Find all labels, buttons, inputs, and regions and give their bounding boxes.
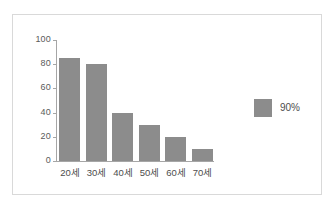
x-axis-tick-label: 60세 — [161, 167, 191, 179]
y-axis-tick-label-text: 0 — [17, 156, 51, 165]
x-axis-tick-label: 50세 — [135, 167, 165, 179]
y-axis-tick — [53, 161, 57, 162]
x-axis-label-group: 20세30세40세50세60세70세 — [57, 167, 227, 181]
y-axis-tick-label-text: 20 — [17, 132, 51, 141]
bar — [139, 125, 160, 161]
bar-slot — [57, 40, 83, 161]
legend-swatch-icon — [254, 99, 272, 117]
bar-series — [57, 40, 217, 161]
y-axis-tick-label: 40 — [13, 108, 51, 117]
bar — [86, 64, 107, 161]
x-axis-tick-label: 70세 — [188, 167, 218, 179]
x-axis-line — [56, 161, 214, 162]
bar-slot — [110, 40, 136, 161]
y-axis-tick-label: 0 — [13, 156, 51, 165]
x-axis-tick-label: 40세 — [108, 167, 138, 179]
bar — [192, 149, 213, 161]
bar — [112, 113, 133, 161]
bar-slot — [163, 40, 189, 161]
bar-slot — [190, 40, 216, 161]
bar-slot — [84, 40, 110, 161]
y-axis-tick-label: 100 — [13, 35, 51, 44]
y-axis-tick-label: 20 — [13, 132, 51, 141]
y-axis-tick-label: 60 — [13, 83, 51, 92]
y-axis-tick-label-text: 100 — [17, 35, 51, 44]
x-axis-tick-label: 30세 — [82, 167, 112, 179]
chart-legend: 90% — [254, 99, 300, 117]
bar — [59, 58, 80, 161]
y-axis-tick-label-text: 80 — [17, 59, 51, 68]
bar-slot — [137, 40, 163, 161]
legend-label: 90% — [280, 103, 300, 113]
y-axis-tick-label-text: 40 — [17, 108, 51, 117]
x-axis-tick-label: 20세 — [55, 167, 85, 179]
chart-figure: 100806040200 20세30세40세50세60세70세 90% — [12, 14, 322, 195]
bar — [165, 137, 186, 161]
y-axis-tick-label-text: 60 — [17, 83, 51, 92]
y-axis-tick-label: 80 — [13, 59, 51, 68]
